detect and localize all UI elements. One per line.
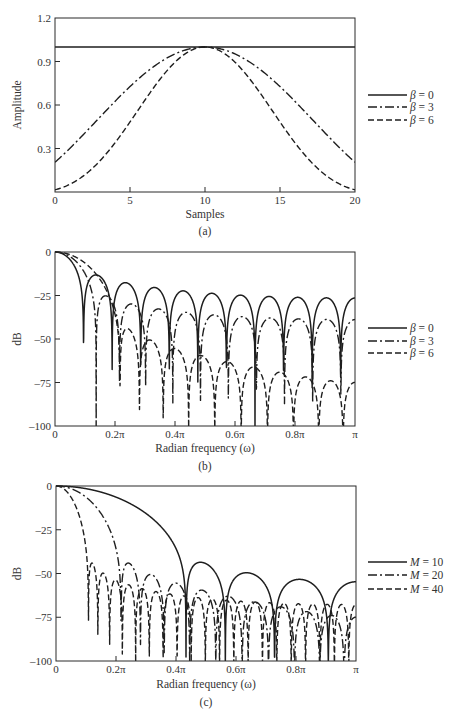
legend-label: M = 40 <box>409 583 444 595</box>
chart-c-legend: M = 10M = 20M = 40 <box>368 556 444 595</box>
y-tick-label: 0 <box>47 480 53 492</box>
x-tick-label: π <box>353 663 359 675</box>
y-tick-label: –100 <box>29 655 53 667</box>
y-tick-label: –75 <box>35 611 53 623</box>
y-tick-label: –25 <box>35 524 53 536</box>
x-tick-label: 0.8π <box>286 663 306 675</box>
x-tick-label: 0.4π <box>166 663 186 675</box>
y-axis-title: dB <box>11 566 23 580</box>
legend-label: M = 20 <box>409 569 444 581</box>
x-axis-title: Radian frequency (ω) <box>156 678 256 691</box>
x-tick-label: 0 <box>53 663 59 675</box>
legend-label: M = 10 <box>409 556 444 568</box>
figure-caption: (c) <box>200 696 213 709</box>
chart-panel-c: 00.2π0.4π0.6π0.8ππ0–25–50–75–100Radian f… <box>0 0 460 722</box>
chart-c-curves <box>56 486 356 663</box>
x-tick-label: 0.2π <box>106 663 126 675</box>
x-tick-label: 0.6π <box>226 663 246 675</box>
chart-c-plot: 00.2π0.4π0.6π0.8ππ0–25–50–75–100Radian f… <box>0 0 460 722</box>
y-tick-label: –50 <box>35 568 53 580</box>
